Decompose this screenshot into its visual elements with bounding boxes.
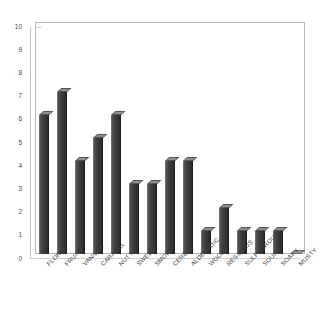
bar: [147, 184, 157, 254]
bar-face: [93, 138, 103, 254]
bar-top-cap: [147, 180, 161, 184]
bar-top-cap: [255, 227, 269, 231]
bar-face: [147, 184, 157, 254]
bar-face: [39, 115, 49, 254]
bar-top-cap: [183, 157, 197, 161]
bar-top-cap: [93, 134, 107, 138]
y-axis-tick-label: 0: [18, 256, 22, 263]
bar-face: [129, 184, 139, 254]
y-axis-tick-label: 5: [18, 140, 22, 147]
bar-chart: 012345678910 FLORALFRUITYVANILLACARAMELN…: [0, 0, 322, 329]
bar: [111, 115, 121, 254]
bar: [39, 115, 49, 254]
bar-face: [57, 92, 67, 254]
y-axis-tick-label: 4: [18, 163, 22, 170]
bar: [165, 161, 175, 254]
y-axis-tick-label: 7: [18, 93, 22, 100]
bar-top-cap: [75, 157, 89, 161]
bar-top-cap: [165, 157, 179, 161]
bar-top-cap: [111, 111, 125, 115]
bar: [183, 161, 193, 254]
bar: [93, 138, 103, 254]
bar: [75, 161, 85, 254]
y-axis-tick-label: 1: [18, 232, 22, 239]
bar-top-cap: [237, 227, 251, 231]
bar-top-cap: [39, 111, 53, 115]
bar-face: [75, 161, 85, 254]
bars-layer: [30, 22, 305, 260]
x-axis-labels: FLORALFRUITYVANILLACARAMELNUTTYSWEETSMOK…: [30, 262, 305, 329]
y-axis-tick-label: 9: [18, 47, 22, 54]
bar-face: [165, 161, 175, 254]
y-axis-tick-label: 8: [18, 70, 22, 77]
y-axis-tick-label: 3: [18, 186, 22, 193]
bar-top-cap: [129, 180, 143, 184]
bar-top-cap: [219, 204, 233, 208]
bar: [57, 92, 67, 254]
bar-top-cap: [57, 88, 71, 92]
y-axis-tick-label: 6: [18, 116, 22, 123]
bar: [129, 184, 139, 254]
bar-top-cap: [201, 227, 215, 231]
bar-face: [183, 161, 193, 254]
y-axis-tick-label: 10: [15, 24, 22, 31]
y-axis: 012345678910: [0, 0, 30, 329]
y-axis-tick-label: 2: [18, 209, 22, 216]
bar-face: [111, 115, 121, 254]
